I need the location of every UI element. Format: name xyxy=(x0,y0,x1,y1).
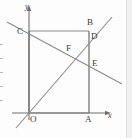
point-label-E: E xyxy=(92,59,98,68)
rectangle-OABC xyxy=(29,31,89,113)
point-label-B: B xyxy=(87,18,93,27)
point-label-C: C xyxy=(17,27,23,36)
x-axis-label: x xyxy=(108,112,112,120)
geometry-figure: y x O A B C D E F xyxy=(0,0,132,138)
y-axis-label: y xyxy=(25,3,29,11)
point-label-D: D xyxy=(91,32,98,41)
x-axis xyxy=(12,111,111,116)
scan-artifact xyxy=(0,44,3,45)
scan-artifact xyxy=(0,100,3,101)
scan-artifact xyxy=(0,72,3,73)
scan-artifact xyxy=(0,58,3,59)
page-gutter xyxy=(126,0,132,138)
point-label-A: A xyxy=(85,115,92,124)
point-label-F: F xyxy=(66,44,71,53)
point-label-O: O xyxy=(30,115,37,124)
y-axis xyxy=(27,5,32,120)
figure-canvas xyxy=(0,0,132,138)
scan-artifact xyxy=(0,86,3,87)
